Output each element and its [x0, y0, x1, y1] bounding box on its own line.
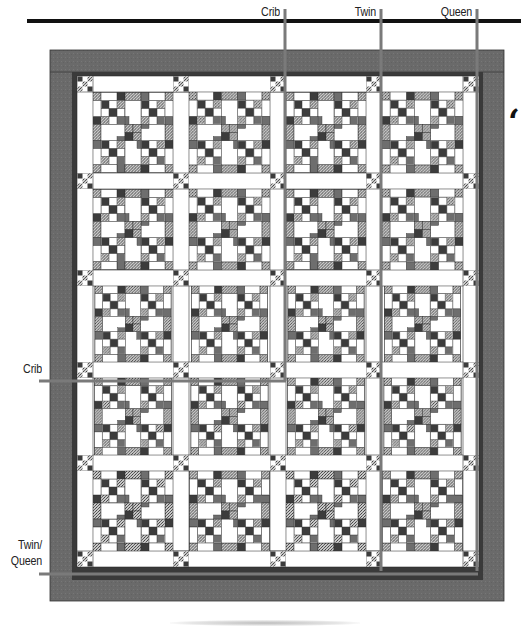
label-twin-left: Twin/ — [8, 537, 42, 552]
label-queen-top: Queen — [431, 4, 472, 19]
label-queen-left: Queen — [8, 553, 42, 568]
page-shadow — [170, 620, 360, 626]
edge-glyph: ‘ — [508, 104, 520, 138]
quilt-diagram — [0, 0, 521, 628]
label-crib-left: Crib — [9, 361, 42, 376]
label-twin-top: Twin — [346, 4, 376, 19]
label-crib-top: Crib — [254, 4, 280, 19]
